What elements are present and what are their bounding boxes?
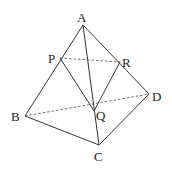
edge-bc (25, 116, 99, 145)
label-r: R (122, 55, 131, 70)
label-a: A (77, 10, 87, 25)
edge-rq (94, 62, 120, 111)
label-b: B (11, 109, 20, 124)
label-d: D (152, 89, 161, 104)
label-p: P (48, 51, 55, 66)
dashed-edge-pr (60, 58, 120, 62)
edge-ac (83, 25, 99, 145)
edge-ad (83, 25, 149, 94)
edge-ab (25, 25, 83, 116)
label-q: Q (96, 108, 106, 123)
label-c: C (94, 149, 103, 164)
tetrahedron-diagram: A B C D P Q R (0, 0, 172, 170)
vertex-labels: A B C D P Q R (11, 10, 161, 164)
solid-edges (25, 25, 149, 145)
